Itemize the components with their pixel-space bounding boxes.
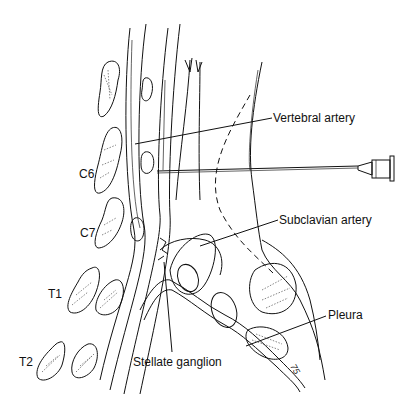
- label-t1: T1: [48, 287, 62, 301]
- label-t2: T2: [19, 355, 33, 369]
- label-pleura: Pleura: [328, 308, 363, 322]
- stellate-ganglion-shape: [158, 238, 168, 260]
- t2-vertebra: [37, 342, 97, 380]
- c5-vertebra: [98, 61, 152, 117]
- anatomy-diagram: Vertebral artery C6 C7 Subclavian artery…: [0, 0, 415, 414]
- c6-vertebra: [95, 127, 154, 193]
- t1-vertebra: [68, 267, 124, 315]
- label-stellate-ganglion: Stellate ganglion: [133, 355, 222, 369]
- label-subclavian-artery: Subclavian artery: [279, 213, 372, 227]
- label-c7: C7: [80, 226, 95, 240]
- label-vertebral-artery: Vertebral artery: [273, 111, 355, 125]
- label-c6: C6: [79, 167, 94, 181]
- diagram-artwork: [0, 0, 415, 414]
- subclavian-artery: [160, 234, 222, 295]
- needle: [157, 156, 394, 181]
- c7-vertebra: [95, 198, 144, 248]
- carotid-outline-dashed: [215, 95, 275, 275]
